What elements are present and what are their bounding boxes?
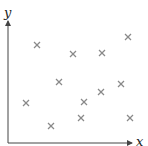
data-point-marker xyxy=(34,42,40,48)
data-point-marker xyxy=(48,123,54,129)
y-axis-label: y xyxy=(3,5,12,20)
data-point-marker xyxy=(23,100,29,106)
data-point-marker xyxy=(118,81,124,87)
data-point-marker xyxy=(81,99,87,105)
x-axis-label: x xyxy=(136,134,144,146)
data-point-marker xyxy=(56,79,62,85)
scatter-chart: y x xyxy=(0,0,148,146)
data-point-marker xyxy=(127,115,133,121)
data-point-marker xyxy=(99,50,105,56)
data-point-marker xyxy=(125,34,131,40)
data-points xyxy=(23,34,133,129)
data-point-marker xyxy=(98,89,104,95)
data-point-marker xyxy=(70,51,76,57)
data-point-marker xyxy=(78,115,84,121)
